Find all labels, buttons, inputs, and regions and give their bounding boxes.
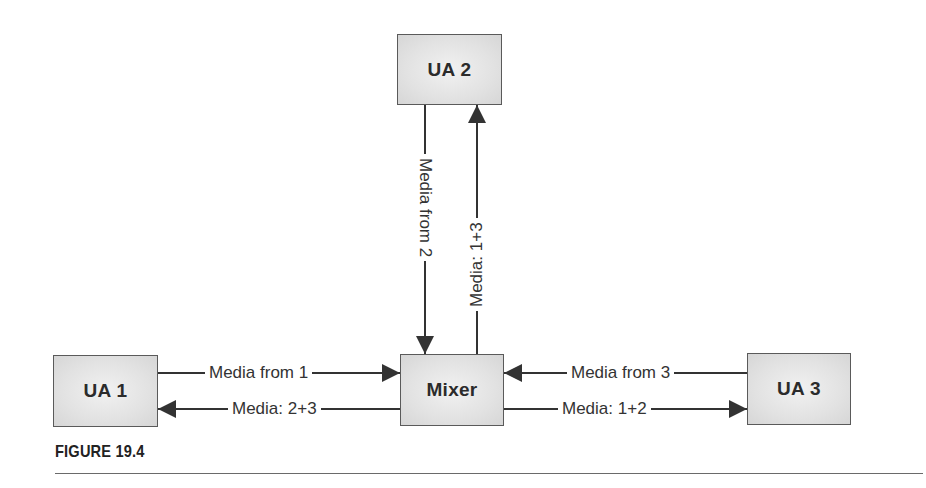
edge-label-media-from-2: Media from 2 — [415, 154, 435, 261]
caption-rule — [55, 473, 923, 474]
node-ua1-label: UA 1 — [84, 380, 128, 402]
node-ua1: UA 1 — [53, 355, 158, 427]
node-ua3: UA 3 — [747, 353, 851, 425]
edge-label-media-1-2: Media: 1+2 — [558, 399, 651, 419]
node-mixer: Mixer — [400, 354, 504, 426]
edge-label-media-from-1: Media from 1 — [205, 363, 312, 383]
node-ua2-label: UA 2 — [428, 59, 472, 81]
figure-caption: FIGURE 19.4 — [55, 442, 145, 462]
node-mixer-label: Mixer — [426, 379, 477, 401]
edge-label-media-from-3: Media from 3 — [567, 363, 674, 383]
edge-label-media-2-3: Media: 2+3 — [228, 399, 321, 419]
node-ua3-label: UA 3 — [777, 378, 821, 400]
edge-label-media-1-3: Media: 1+3 — [467, 218, 487, 311]
node-ua2: UA 2 — [397, 34, 502, 105]
